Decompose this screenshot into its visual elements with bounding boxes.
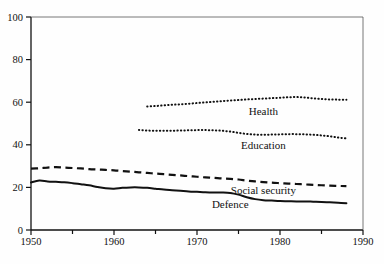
series-label-health: Health	[249, 105, 279, 117]
data-series-group	[31, 97, 346, 203]
x-tick-label: 1980	[270, 236, 291, 247]
series-label-education: Education	[241, 139, 286, 151]
series-line-education	[139, 130, 347, 139]
series-line-health	[147, 97, 346, 106]
x-tick-label: 1990	[353, 236, 374, 247]
y-tick-label: 100	[7, 12, 23, 23]
series-label-group: HealthEducationSocial securityDefence	[212, 105, 297, 210]
y-tick-label: 0	[18, 225, 23, 236]
series-label-defence: Defence	[212, 198, 249, 210]
chart-container: 020406080100 19501960197019801990 Health…	[0, 0, 384, 264]
y-tick-label: 80	[13, 54, 24, 65]
y-tick-label: 20	[13, 182, 24, 193]
x-tick-label: 1950	[21, 236, 42, 247]
x-tick-label: 1970	[187, 236, 208, 247]
y-axis-ticks: 020406080100	[7, 12, 31, 236]
line-chart: 020406080100 19501960197019801990 Health…	[0, 0, 384, 264]
axis-group	[31, 17, 363, 230]
x-axis-ticks: 19501960197019801990	[21, 230, 374, 247]
x-tick-label: 1960	[104, 236, 125, 247]
y-tick-label: 40	[13, 139, 24, 150]
y-tick-label: 60	[13, 97, 24, 108]
series-label-social-security: Social security	[231, 184, 297, 196]
